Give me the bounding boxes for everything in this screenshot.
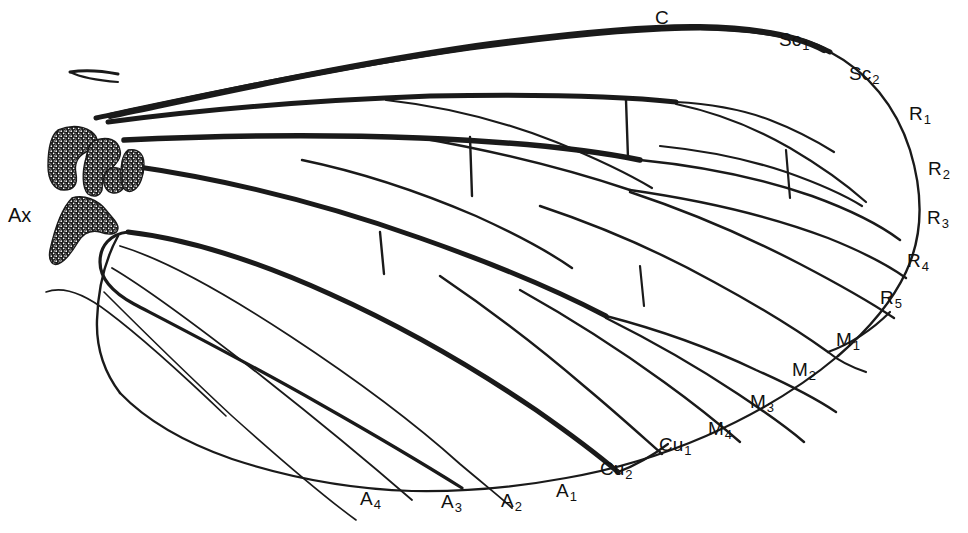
label-axillary: Ax [8,205,31,225]
label-media-2: M2 [792,360,815,379]
crossvein-r-m [470,137,472,196]
label-anal-1: A1 [556,481,576,500]
label-radius-3: R3 [927,208,948,227]
axillary-sclerite-4 [121,150,144,192]
outer-margin [830,52,919,356]
vein-costa [110,27,824,116]
label-radius-1: R1 [909,104,930,123]
label-anal-3: A3 [441,492,461,511]
crossvein-bm [380,232,384,274]
humeral-stub [70,71,118,74]
label-media-4: M4 [708,419,731,438]
vein-r3 [630,192,894,318]
vein-m2 [606,318,804,442]
label-subcosta-1: Sc1 [779,30,808,49]
crossvein-h [626,100,628,158]
label-radius-4: R4 [907,251,928,270]
label-costa: C [655,8,669,27]
vein-a2 [112,268,412,500]
vein-r1 [640,160,900,240]
wing-venation-figure: C Sc1 Sc2 R1 R2 R3 R4 R5 M1 M2 M3 M4 Cu1… [0,0,968,533]
label-radius-5: R5 [880,288,901,307]
label-cubitus-2: Cu2 [600,459,632,478]
label-subcosta-2: Sc2 [849,64,878,83]
anal-fold-line [46,290,226,416]
label-radius-2: R2 [928,159,949,178]
label-anal-2: A2 [501,491,521,510]
vein-media-stem [132,166,606,316]
vein-a3 [104,292,356,520]
cubital-basal-loop [100,232,462,488]
vein-r45 [540,206,828,352]
vein-radius-stem [124,136,640,160]
label-cubitus-1: Cu1 [659,435,691,454]
axillary-sclerite-5 [49,197,118,265]
wing-diagram-svg [0,0,968,533]
costal-margin [96,28,830,118]
vein-r2 [630,190,906,278]
vein-r5 [828,352,866,372]
label-media-1: M1 [836,330,859,349]
label-media-3: M3 [750,392,773,411]
vein-m4 [440,276,662,454]
crossvein-m-cu [640,266,644,306]
label-anal-4: A4 [360,489,380,508]
